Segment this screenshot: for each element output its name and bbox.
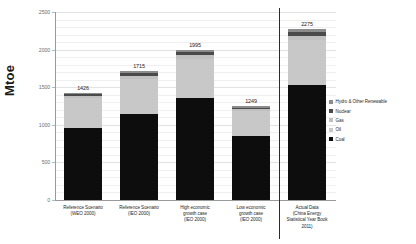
bar-segment-oil — [176, 59, 214, 98]
y-tick-label: 0 — [24, 197, 50, 203]
legend-swatch-icon — [329, 128, 333, 132]
y-tick-label: 1000 — [24, 122, 50, 128]
y-tick-label: 1500 — [24, 84, 50, 90]
bar-1[interactable] — [64, 93, 102, 200]
legend-label: Oil — [336, 127, 341, 132]
bar-value-label: 1249 — [221, 98, 281, 104]
y-tick-label: 2000 — [24, 47, 50, 53]
bar-2[interactable] — [120, 71, 158, 200]
bar-value-label: 1995 — [165, 42, 225, 48]
category-label-5: Actual Data(China EnergyStatistical Year… — [275, 205, 339, 230]
category-label-3: High economicgrowth case(IEO 2000) — [163, 205, 227, 224]
bar-5[interactable] — [288, 29, 326, 200]
stacked-bar-chart: Mtoe 05001000150020002500 14261715199512… — [0, 0, 416, 244]
category-label-line: (IEO 2000) — [163, 217, 227, 223]
legend-swatch-icon — [329, 137, 333, 141]
legend-label: Hydro & Other Renewable — [336, 99, 387, 104]
bar-segment-oil — [64, 98, 102, 128]
legend-item-nuclear[interactable]: Nuclear — [329, 106, 415, 115]
chart-legend: Hydro & Other RenewableNuclearGasOilCoal — [329, 97, 415, 144]
y-axis-title: Mtoe — [2, 65, 17, 96]
legend-swatch-icon — [329, 118, 333, 122]
legend-item-oil[interactable]: Oil — [329, 125, 415, 134]
category-label-1: Reference Scenario(WEO 2000) — [51, 205, 115, 217]
legend-label: Gas — [336, 118, 344, 123]
category-label-line: (WEO 2000) — [51, 211, 115, 217]
bar-segment-coal — [232, 136, 270, 200]
bar-3[interactable] — [176, 50, 214, 200]
y-tick-label: 2500 — [24, 9, 50, 15]
bar-value-label: 1426 — [53, 85, 113, 91]
legend-item-gas[interactable]: Gas — [329, 116, 415, 125]
legend-swatch-icon — [329, 109, 333, 113]
category-separator-line — [279, 8, 280, 239]
legend-label: Coal — [336, 137, 345, 142]
category-label-line: 2011) — [275, 224, 339, 230]
legend-label: Nuclear — [336, 109, 351, 114]
category-label-4: Low economicgrowth case(IEO 2000) — [219, 205, 283, 224]
bar-segment-oil — [232, 111, 270, 135]
bar-value-label: 2275 — [277, 21, 337, 27]
category-label-2: Reference Scenario(IEO 2000) — [107, 205, 171, 217]
category-label-line: (IEO 2000) — [107, 211, 171, 217]
bar-segment-oil — [120, 79, 158, 114]
bar-segment-oil — [288, 40, 326, 85]
bar-segment-coal — [176, 98, 214, 200]
legend-item-coal[interactable]: Coal — [329, 135, 415, 144]
x-axis-line — [55, 200, 336, 201]
bar-4[interactable] — [232, 106, 270, 200]
bar-segment-coal — [120, 114, 158, 200]
legend-item-hydro-other-renewable[interactable]: Hydro & Other Renewable — [329, 97, 415, 106]
legend-swatch-icon — [329, 100, 333, 104]
bar-segment-coal — [64, 128, 102, 200]
y-tick-label: 500 — [24, 159, 50, 165]
plot-area: 14261715199512492275 — [55, 12, 335, 200]
category-label-line: (IEO 2000) — [219, 217, 283, 223]
bar-segment-coal — [288, 85, 326, 200]
bar-value-label: 1715 — [109, 63, 169, 69]
